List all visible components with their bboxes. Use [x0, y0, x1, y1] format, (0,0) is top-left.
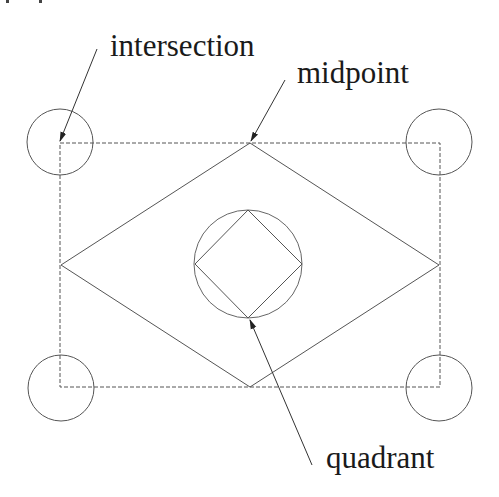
diamond-shape: [61, 143, 439, 387]
snap-diagram: intersection midpoint quadrant: [0, 0, 499, 497]
intersection-leader-arrow: [60, 49, 97, 141]
corner-circle-bottom-left: [28, 355, 94, 421]
center-circle: [194, 210, 302, 318]
dashed-rectangle: [60, 143, 440, 387]
midpoint-leader-arrow: [251, 80, 285, 141]
midpoint-label: midpoint: [297, 55, 409, 90]
corner-circle-bottom-right: [406, 355, 472, 421]
quadrant-leader-arrow: [250, 320, 312, 465]
quadrant-label: quadrant: [326, 440, 435, 475]
corner-circle-top-right: [406, 109, 472, 175]
top-text-fragment: [6, 0, 42, 3]
intersection-label: intersection: [110, 28, 255, 63]
